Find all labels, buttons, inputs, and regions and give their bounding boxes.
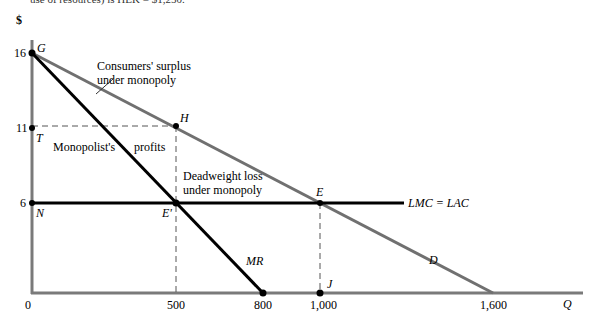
mr-label: MR xyxy=(245,254,264,268)
monopoly-chart: $ Q 16 11 6 0 500 800 1,000 1,600 G T H … xyxy=(0,0,591,323)
cs-annotation-line2: under monopoly xyxy=(97,73,176,87)
label-j: J xyxy=(327,277,333,291)
label-n: N xyxy=(35,206,45,220)
label-g: G xyxy=(37,41,46,55)
x-tick-1000: 1,000 xyxy=(310,298,337,312)
y-axis-label: $ xyxy=(16,13,22,27)
y-tick-16: 16 xyxy=(14,46,26,60)
point-mr-intercept xyxy=(260,290,267,297)
point-e-prime xyxy=(173,200,180,207)
y-tick-11: 11 xyxy=(16,121,28,135)
cs-annotation-line1: Consumers' surplus xyxy=(97,59,191,73)
x-tick-0: 0 xyxy=(25,298,31,312)
label-e-prime: E' xyxy=(161,206,172,220)
y-tick-6: 6 xyxy=(20,196,26,210)
label-e: E xyxy=(315,185,324,199)
x-tick-1600: 1,600 xyxy=(480,298,507,312)
point-t xyxy=(29,125,35,131)
point-j xyxy=(317,290,324,297)
demand-label: D xyxy=(428,253,438,267)
profits-annotation-right: profits xyxy=(134,140,166,154)
x-tick-500: 500 xyxy=(167,298,185,312)
profits-annotation-left: Monopolist's xyxy=(53,140,116,154)
lmc-lac-label: LMC = LAC xyxy=(407,196,470,210)
point-g xyxy=(29,50,36,57)
point-e xyxy=(317,200,323,206)
x-tick-800: 800 xyxy=(254,298,272,312)
label-h: H xyxy=(179,111,190,125)
dwl-annotation-line1: Deadweight loss xyxy=(183,169,263,183)
dwl-annotation-line2: under monopoly xyxy=(183,183,262,197)
point-h xyxy=(173,123,179,129)
x-axis-label: Q xyxy=(563,297,572,311)
label-t: T xyxy=(36,131,44,145)
point-n xyxy=(29,200,35,206)
